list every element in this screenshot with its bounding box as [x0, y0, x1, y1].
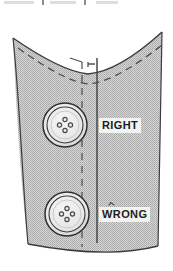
diagram-canvas: [0, 0, 173, 271]
button-right-outer-edge: [43, 103, 87, 147]
scan-artifact-tick: [84, 0, 86, 5]
scan-artifact: [96, 1, 118, 4]
scan-artifact: [50, 1, 76, 4]
measurement-tick: [88, 62, 95, 67]
button-wrong-outer-edge: [45, 192, 89, 236]
placement-line-corner: [70, 58, 82, 62]
button-right[interactable]: [43, 103, 87, 147]
scan-artifact-tick: [42, 0, 44, 5]
button-placement-diagram: RIGHT WRONG: [0, 0, 173, 271]
button-wrong[interactable]: [45, 192, 89, 236]
label-right: RIGHT: [99, 118, 141, 133]
label-wrong: WRONG: [99, 207, 150, 222]
scan-artifact: [4, 1, 34, 4]
